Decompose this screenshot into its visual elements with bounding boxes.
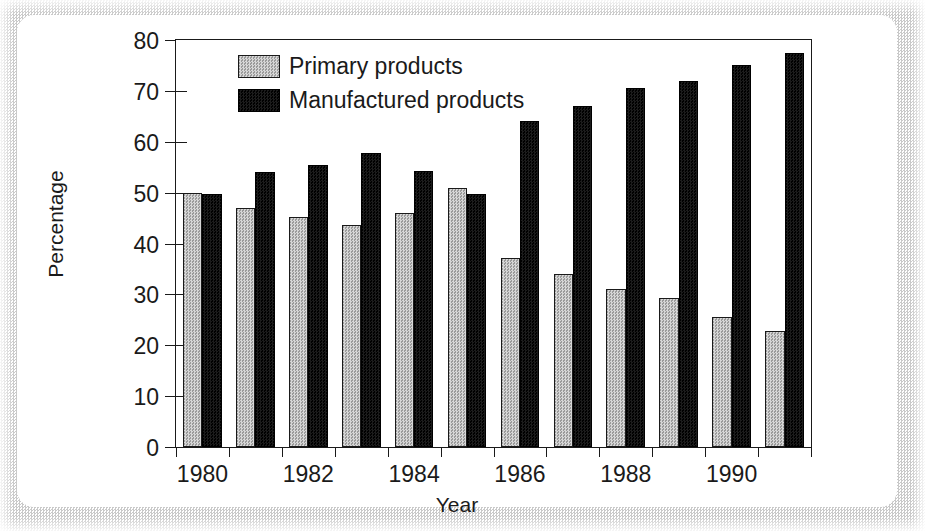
y-axis-inner-tick bbox=[176, 91, 187, 92]
bar-primary-1988 bbox=[606, 289, 625, 447]
x-axis-tick-label: 1984 bbox=[389, 461, 440, 488]
bar-manufactured-1988 bbox=[626, 88, 645, 447]
x-axis-tick-label: 1982 bbox=[283, 461, 334, 488]
y-axis-tick-label: 0 bbox=[146, 435, 159, 462]
bar-chart-figure: Percentage Year 01020304050607080 198019… bbox=[18, 16, 896, 506]
legend-swatch-manufactured-icon bbox=[238, 89, 280, 112]
y-axis-tick-label: 70 bbox=[133, 78, 159, 105]
x-axis-tick bbox=[652, 447, 653, 457]
y-axis-tick-label: 40 bbox=[133, 231, 159, 258]
plot-area: 01020304050607080 1980198219841986198819… bbox=[175, 39, 812, 448]
bar-primary-1991 bbox=[765, 331, 784, 447]
x-axis-tick bbox=[282, 447, 283, 457]
legend-label-primary: Primary products bbox=[289, 53, 463, 80]
bar-primary-1985 bbox=[448, 188, 467, 447]
y-axis-tick: 80 bbox=[165, 40, 176, 41]
y-axis-inner-tick bbox=[176, 142, 187, 143]
bar-primary-1980 bbox=[183, 193, 202, 447]
bar-primary-1984 bbox=[395, 213, 414, 447]
bar-manufactured-1981 bbox=[255, 172, 274, 447]
y-axis-tick-label: 80 bbox=[133, 28, 159, 55]
y-axis-tick: 50 bbox=[165, 193, 176, 194]
y-axis-tick: 20 bbox=[165, 345, 176, 346]
bar-primary-1981 bbox=[236, 208, 255, 447]
y-axis-tick-label: 10 bbox=[133, 384, 159, 411]
bar-manufactured-1980 bbox=[202, 194, 221, 447]
x-axis-tick bbox=[229, 447, 230, 457]
legend-swatch-primary-icon bbox=[238, 55, 280, 78]
bar-primary-1990 bbox=[712, 317, 731, 447]
x-axis-tick bbox=[494, 447, 495, 457]
y-axis-tick: 0 bbox=[165, 447, 176, 448]
bar-manufactured-1986 bbox=[520, 121, 539, 447]
x-axis-tick-label: 1986 bbox=[494, 461, 545, 488]
bar-primary-1982 bbox=[289, 217, 308, 447]
x-axis-tick bbox=[546, 447, 547, 457]
y-axis-tick: 10 bbox=[165, 396, 176, 397]
x-axis-tick-label: 1980 bbox=[177, 461, 228, 488]
x-axis-tick bbox=[335, 447, 336, 457]
legend-item-primary: Primary products bbox=[238, 49, 524, 83]
y-axis-tick: 60 bbox=[165, 142, 176, 143]
x-axis-tick bbox=[599, 447, 600, 457]
x-axis-tick bbox=[705, 447, 706, 457]
bar-manufactured-1984 bbox=[414, 171, 433, 447]
bar-primary-1987 bbox=[554, 274, 573, 447]
y-axis-title: Percentage bbox=[44, 124, 68, 324]
chart-legend: Primary products Manufactured products bbox=[238, 49, 524, 117]
legend-item-manufactured: Manufactured products bbox=[238, 83, 524, 117]
x-axis-tick bbox=[758, 447, 759, 457]
bar-manufactured-1985 bbox=[467, 194, 486, 447]
bar-manufactured-1991 bbox=[785, 53, 804, 447]
y-axis-tick: 70 bbox=[165, 91, 176, 92]
x-axis-title: Year bbox=[18, 493, 896, 517]
bar-manufactured-1990 bbox=[732, 65, 751, 447]
y-axis-tick: 40 bbox=[165, 244, 176, 245]
bar-primary-1983 bbox=[342, 225, 361, 447]
x-axis-tick-label: 1990 bbox=[706, 461, 757, 488]
x-axis-tick bbox=[441, 447, 442, 457]
bar-manufactured-1983 bbox=[361, 153, 380, 447]
x-axis-tick-label: 1988 bbox=[600, 461, 651, 488]
y-axis-tick: 30 bbox=[165, 294, 176, 295]
bar-manufactured-1987 bbox=[573, 106, 592, 447]
bar-primary-1986 bbox=[501, 258, 520, 447]
legend-label-manufactured: Manufactured products bbox=[289, 87, 524, 114]
y-axis-tick-label: 20 bbox=[133, 333, 159, 360]
y-axis-tick-label: 60 bbox=[133, 129, 159, 156]
x-axis-tick bbox=[388, 447, 389, 457]
x-axis-tick bbox=[176, 447, 177, 457]
bar-primary-1989 bbox=[659, 298, 678, 447]
y-axis-tick-label: 50 bbox=[133, 180, 159, 207]
x-axis-tick bbox=[811, 447, 812, 457]
page-background: Percentage Year 01020304050607080 198019… bbox=[0, 0, 925, 531]
y-axis-tick-label: 30 bbox=[133, 282, 159, 309]
bar-manufactured-1989 bbox=[679, 81, 698, 447]
bar-manufactured-1982 bbox=[308, 165, 327, 447]
figure-card: Percentage Year 01020304050607080 198019… bbox=[18, 16, 896, 506]
